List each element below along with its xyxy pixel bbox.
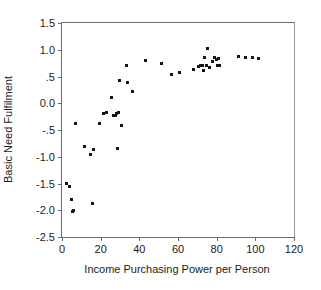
x-axis-tick xyxy=(294,237,295,241)
x-axis-tick xyxy=(139,237,140,241)
x-axis-tick-label: 40 xyxy=(133,244,145,255)
y-axis-tick-label: 1.5 xyxy=(40,18,55,29)
data-point xyxy=(192,68,195,71)
data-point xyxy=(244,56,247,59)
data-point xyxy=(74,122,77,125)
data-point xyxy=(89,153,92,156)
y-axis-tick-label: -1.0 xyxy=(36,151,55,162)
plot-area: -2.5-2.0-1.5-1.0-.50.0.51.01.5 020406080… xyxy=(61,22,295,238)
x-axis-title-text: Income Purchasing Power per Person xyxy=(84,263,269,275)
data-point xyxy=(257,57,260,60)
data-point xyxy=(110,96,113,99)
data-point xyxy=(72,209,75,212)
data-point xyxy=(126,81,129,84)
data-point xyxy=(118,79,121,82)
y-axis-tick-label: 0.0 xyxy=(40,98,55,109)
data-point xyxy=(131,90,134,93)
x-axis-tick xyxy=(178,237,179,241)
data-point xyxy=(125,64,128,67)
data-point xyxy=(203,56,206,59)
data-point xyxy=(201,64,204,67)
y-axis-title-text: Basic Need Fulfilment xyxy=(3,76,14,183)
x-axis-tick-label: 100 xyxy=(246,244,264,255)
y-axis-title: Basic Need Fulfilment xyxy=(0,22,16,236)
data-points-layer xyxy=(62,23,294,237)
data-point xyxy=(68,185,71,188)
x-axis-tick-label: 20 xyxy=(95,244,107,255)
data-point xyxy=(251,56,254,59)
y-axis-tick-label: -2.5 xyxy=(36,232,55,243)
x-axis-tick-label: 60 xyxy=(172,244,184,255)
x-axis-tick-label: 120 xyxy=(285,244,303,255)
data-point xyxy=(116,147,119,150)
data-point xyxy=(208,66,211,69)
data-point xyxy=(202,69,205,72)
x-axis-tick-label: 80 xyxy=(211,244,223,255)
data-point xyxy=(205,64,208,67)
data-point xyxy=(92,148,95,151)
x-axis-tick xyxy=(217,237,218,241)
data-point xyxy=(237,55,240,58)
x-axis-title: Income Purchasing Power per Person xyxy=(61,264,293,275)
data-point xyxy=(70,198,73,201)
data-point xyxy=(178,71,181,74)
data-point xyxy=(117,111,120,114)
data-point xyxy=(144,59,147,62)
x-axis-tick xyxy=(101,237,102,241)
x-axis-tick xyxy=(62,237,63,241)
y-axis-tick-label: -2.0 xyxy=(36,205,55,216)
y-axis-tick-label: 1.0 xyxy=(40,44,55,55)
y-axis-tick-label: -1.5 xyxy=(36,178,55,189)
y-axis-tick-label: .5 xyxy=(46,71,55,82)
data-point xyxy=(217,57,220,60)
data-point xyxy=(120,124,123,127)
data-point xyxy=(83,145,86,148)
x-axis-tick xyxy=(255,237,256,241)
x-axis-tick-label: 0 xyxy=(59,244,65,255)
data-point xyxy=(218,64,221,67)
data-point xyxy=(170,73,173,76)
data-point xyxy=(98,122,101,125)
data-point xyxy=(91,202,94,205)
y-axis-tick-label: -.5 xyxy=(42,125,55,136)
data-point xyxy=(206,47,209,50)
scatter-chart-figure: Basic Need Fulfilment -2.5-2.0-1.5-1.0-.… xyxy=(0,0,321,290)
data-point xyxy=(160,62,163,65)
data-point xyxy=(105,111,108,114)
data-point xyxy=(211,60,214,63)
